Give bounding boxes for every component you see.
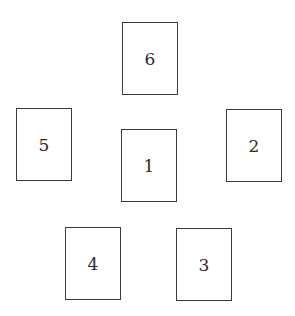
card-label: 1 xyxy=(144,156,155,176)
card-4-bottom-left: 4 xyxy=(65,227,121,300)
card-label: 4 xyxy=(88,254,99,274)
card-label: 6 xyxy=(145,49,156,69)
card-label: 3 xyxy=(199,255,210,275)
card-5-left: 5 xyxy=(16,108,72,181)
card-label: 5 xyxy=(39,135,50,155)
card-3-bottom-right: 3 xyxy=(176,228,232,301)
card-6-top: 6 xyxy=(122,22,178,95)
card-label: 2 xyxy=(249,136,260,156)
card-1-center: 1 xyxy=(121,129,177,202)
card-2-right: 2 xyxy=(226,109,282,182)
